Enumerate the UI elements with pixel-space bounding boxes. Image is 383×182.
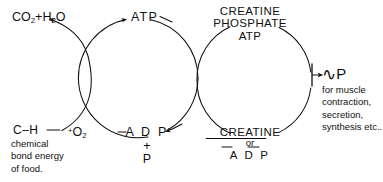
adp-plus-sign: + (124, 140, 170, 154)
diagram-canvas: CO2+H2O ATP CREATINE PHOSPHATE ATP ∿P fo… (0, 0, 383, 182)
oxygen-element: O (73, 125, 83, 139)
label-food-bond: C–H (13, 124, 39, 137)
cp-line-creatine: CREATINE (205, 5, 295, 17)
label-oxygen: +O2 (68, 126, 87, 141)
label-waste-products: CO2+H2O (12, 11, 65, 26)
label-adp-plus-p: A D P + P (124, 126, 170, 167)
adp-line: A D P (124, 126, 170, 140)
creatine-phosphate-cycle-circle (197, 27, 311, 133)
phosphate-symbol: P (336, 65, 346, 82)
oxidation-arc (50, 19, 91, 131)
high-energy-phosphate-exit (312, 64, 322, 86)
food-caption-line-1: chemical (11, 138, 64, 150)
or-line: or (203, 138, 297, 148)
food-caption-line-2: bond energy (11, 150, 64, 162)
adp-phosphate: P (124, 153, 170, 167)
label-creatine-or-adp: CREATINE or A D P (203, 126, 297, 161)
cp-line-phosphate: PHOSPHATE (205, 17, 295, 29)
label-atp: ATP (131, 11, 158, 25)
label-creatine-phosphate-atp: CREATINE PHOSPHATE ATP (205, 5, 295, 42)
oxygen-subscript: 2 (82, 131, 86, 140)
adp-alt-line: A D P (203, 149, 297, 161)
atp-right-lead (160, 17, 172, 23)
uses-line-1: for muscle (322, 84, 382, 96)
food-caption-line-3: of food. (11, 163, 64, 175)
h2o-o: O (56, 10, 66, 24)
label-food-bond-caption: chemical bond energy of food. (11, 138, 64, 175)
uses-line-2: contraction, (322, 96, 382, 108)
atp-adp-cycle-circle (78, 19, 198, 137)
co2-c-o: CO (12, 10, 31, 24)
label-energy-uses: for muscle contraction, secretion, synth… (322, 84, 382, 133)
uses-line-4: synthesis etc.. (322, 121, 382, 133)
uses-line-3: secretion, (322, 109, 382, 121)
squiggle-bond-icon: ∿ (322, 66, 336, 84)
cp-line-atp: ATP (205, 30, 295, 42)
label-high-energy-phosphate: ∿P (322, 65, 346, 83)
